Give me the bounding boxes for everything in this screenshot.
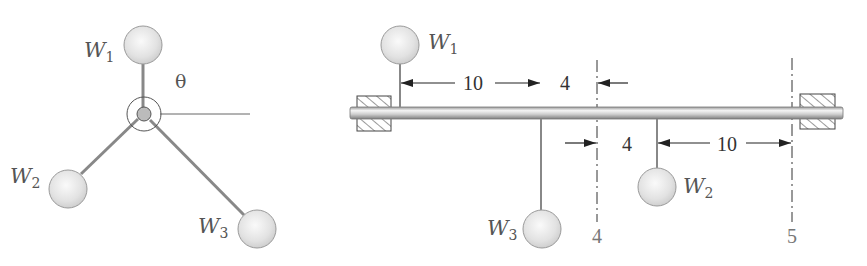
dim-plane4-w2: 4: [622, 133, 632, 155]
sphere-w1-side: [381, 26, 419, 64]
plane-4-label: 4: [592, 225, 602, 247]
label-w3: W3: [198, 214, 229, 241]
rod-w2: [81, 119, 138, 174]
label-w2: W2: [10, 164, 41, 191]
rod-w3: [150, 120, 244, 215]
plane-5-label: 5: [787, 225, 797, 247]
side-view: W1 W2 W3 10 4 4 10 4 5: [350, 26, 843, 248]
sphere-w2-side: [638, 168, 676, 206]
label-w2-side: W2: [683, 174, 714, 201]
end-view: θ W1 W2 W3: [10, 26, 276, 248]
label-w3-side: W3: [487, 216, 518, 243]
sphere-w1: [124, 26, 162, 64]
label-w1-side: W1: [428, 30, 459, 57]
shaft: [350, 107, 843, 119]
dim-w3-plane4: 4: [560, 72, 570, 94]
sphere-w3-side: [523, 210, 561, 248]
angle-theta-label: θ: [175, 70, 186, 92]
label-w1: W1: [84, 38, 115, 65]
shaft-balancing-diagram: θ W1 W2 W3 W1 W2 W3 10 4 4: [0, 0, 867, 266]
dim-w2-plane5: 10: [717, 133, 737, 155]
hub-center: [137, 107, 151, 121]
sphere-w3: [238, 210, 276, 248]
dim-w1-w3: 10: [463, 72, 483, 94]
sphere-w2: [49, 170, 87, 208]
